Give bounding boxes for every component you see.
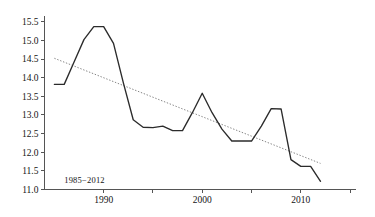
period-annotation: 1985−2012 <box>64 175 105 185</box>
y-tick-label: 15.0 <box>22 36 39 46</box>
chart-container: 11.011.512.012.513.013.514.014.515.015.5… <box>0 0 375 217</box>
y-tick-label: 13.5 <box>22 92 39 102</box>
y-tick-label: 14.5 <box>22 54 39 64</box>
x-tick-label: 2000 <box>193 195 212 205</box>
x-axis-tick-marks <box>104 190 350 194</box>
y-axis-tick-marks <box>41 22 45 190</box>
trend-line-series <box>54 58 320 163</box>
y-tick-label: 11.5 <box>22 166 39 176</box>
observed-data-series <box>54 27 320 182</box>
chart-annotations: 1985−2012 <box>64 175 105 185</box>
y-tick-label: 11.0 <box>22 185 39 195</box>
x-tick-label: 1990 <box>94 195 113 205</box>
y-tick-label: 15.5 <box>22 17 39 27</box>
x-tick-label: 2010 <box>291 195 310 205</box>
y-tick-label: 13.0 <box>22 110 39 120</box>
y-tick-label: 12.5 <box>22 129 39 139</box>
y-axis-tick-labels: 11.011.512.012.513.013.514.014.515.015.5 <box>22 17 39 195</box>
y-tick-label: 14.0 <box>22 73 39 83</box>
y-tick-label: 12.0 <box>22 148 39 158</box>
x-axis-tick-labels: 199020002010 <box>94 195 310 205</box>
line-chart: 11.011.512.012.513.013.514.014.515.015.5… <box>0 0 375 217</box>
